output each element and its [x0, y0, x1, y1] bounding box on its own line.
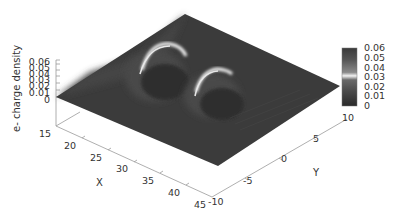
z-tick-labels: 0.06 0.05 0.04 0.03 0.02 0.01 0 [29, 56, 50, 105]
svg-text:5: 5 [313, 133, 319, 144]
x-axis-label: X [96, 177, 103, 188]
svg-text:30: 30 [116, 163, 128, 174]
colorbar: 0.06 0.05 0.04 0.03 0.02 0.01 0 [342, 42, 385, 111]
svg-text:-5: -5 [243, 175, 252, 186]
svg-text:15: 15 [39, 128, 51, 139]
surface-plot: 0.06 0.05 0.04 0.03 0.02 0.01 0 0.06 0.0… [0, 0, 394, 219]
svg-text:0: 0 [281, 153, 287, 164]
z-ticks [56, 60, 60, 97]
svg-text:35: 35 [142, 175, 154, 186]
svg-text:-10: -10 [208, 196, 224, 207]
svg-text:0: 0 [44, 94, 50, 105]
svg-text:20: 20 [64, 140, 76, 151]
surface [56, 14, 340, 166]
y-axis-label: Y [312, 167, 320, 178]
z-axis-label: e- charge density [11, 45, 22, 132]
svg-text:45: 45 [194, 199, 206, 210]
svg-text:40: 40 [168, 187, 180, 198]
colorbar-tick: 0 [364, 100, 370, 111]
svg-text:10: 10 [342, 112, 354, 123]
colorbar-gradient [342, 48, 357, 106]
svg-text:25: 25 [90, 152, 102, 163]
